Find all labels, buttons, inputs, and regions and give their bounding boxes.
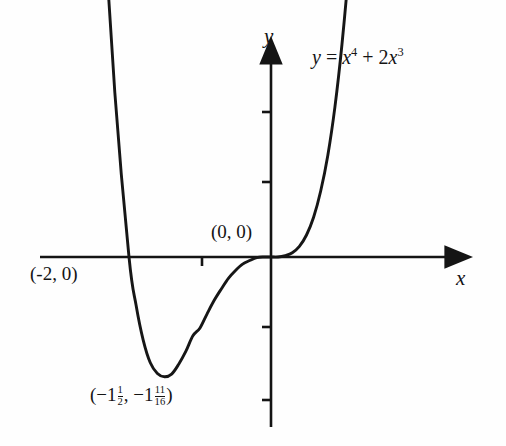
equation-term2-exponent: 3 — [397, 45, 403, 59]
min-label-x-fraction: 12 — [117, 385, 124, 408]
minimum-point-label: (−112, −11116) — [90, 385, 173, 408]
equation-plus: + — [357, 46, 378, 68]
equation-lhs: y — [312, 46, 321, 68]
min-label-y-fraction: 1116 — [154, 385, 167, 408]
min-label-comma: , — [124, 384, 129, 405]
equation-equals: = — [321, 46, 342, 68]
min-label-close-paren: ) — [166, 384, 172, 405]
min-label-y-numerator: 11 — [155, 385, 166, 396]
equation-annotation: y=x4+2x3 — [312, 47, 404, 67]
min-label-y-denominator: 16 — [155, 396, 166, 408]
min-label-x-denominator: 2 — [118, 396, 123, 408]
min-label-x-sign: − — [96, 384, 107, 405]
origin-point-label: (0, 0) — [211, 222, 252, 241]
equation-term1-base: x — [342, 46, 351, 68]
x-intercept-point-label: (-2, 0) — [30, 264, 77, 283]
min-label-x-numerator: 1 — [118, 385, 123, 396]
equation-term2-coefficient: 2 — [379, 46, 389, 68]
graph-figure: y x y=x4+2x3 (0, 0) (-2, 0) (−112, −1111… — [0, 0, 506, 446]
coordinate-plot — [0, 0, 506, 446]
min-label-x-whole: 1 — [107, 384, 117, 405]
x-axis-label: x — [456, 268, 465, 289]
y-axis-label: y — [264, 26, 273, 47]
min-label-y-whole: 1 — [144, 384, 154, 405]
min-label-y-sign: − — [133, 384, 144, 405]
